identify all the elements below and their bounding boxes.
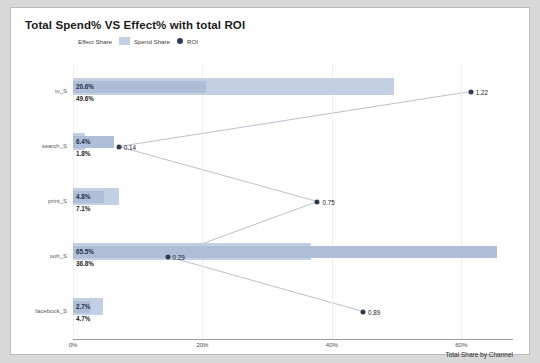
grid-line (202, 64, 203, 339)
bar-value-effect-share: 20.6% (76, 83, 94, 90)
bar-effect-share[interactable] (73, 246, 497, 258)
square-swatch-icon (119, 37, 130, 45)
legend-item-roi[interactable]: ROI (177, 38, 198, 45)
roi-data-point[interactable] (116, 144, 121, 149)
y-axis-category-label: search_S (11, 143, 67, 149)
roi-value-label: 0.75 (322, 198, 334, 205)
bar-value-effect-share: 2.7% (76, 303, 90, 310)
roi-data-point[interactable] (468, 89, 473, 94)
bar-value-effect-share: 65.5% (76, 248, 94, 255)
x-axis-line (73, 339, 513, 340)
x-axis-tick-label: 40% (326, 342, 338, 348)
legend-label-spend-share: Spend Share (134, 38, 170, 45)
y-axis-category-label: tv_S (11, 88, 67, 94)
chart-title: Total Spend% VS Effect% with total ROI (25, 19, 245, 31)
bar-value-spend-share: 7.1% (76, 205, 90, 212)
y-axis-category-label: ooh_S (11, 253, 67, 259)
legend-item-spend-share[interactable]: Spend Share (119, 37, 170, 45)
chart-legend: Effect Share Spend Share ROI (63, 37, 198, 45)
roi-connector-lines (73, 64, 513, 339)
square-swatch-icon (63, 37, 74, 45)
roi-value-label: 1.22 (476, 88, 488, 95)
bar-value-spend-share: 4.7% (76, 315, 90, 322)
roi-value-label: 0.29 (173, 253, 185, 260)
bar-value-effect-share: 4.8% (76, 193, 90, 200)
legend-label-effect-share: Effect Share (78, 38, 112, 45)
plot-area: 20.6%49.6%1.226.4%1.8%0.144.8%7.1%0.7565… (73, 64, 513, 339)
x-axis-tick-label: 20% (196, 342, 208, 348)
bar-value-spend-share: 36.8% (76, 260, 94, 267)
grid-line (461, 64, 462, 339)
legend-item-effect-share[interactable]: Effect Share (63, 37, 112, 45)
legend-label-roi: ROI (187, 38, 198, 45)
chart-card: Total Spend% VS Effect% with total ROI E… (10, 7, 530, 355)
roi-value-label: 0.89 (368, 308, 380, 315)
circle-marker-icon (177, 38, 183, 44)
y-axis-category-label: facebook_S (11, 308, 67, 314)
roi-data-point[interactable] (361, 309, 366, 314)
x-axis-tick-label: 60% (455, 342, 467, 348)
roi-data-point[interactable] (315, 199, 320, 204)
x-axis-title: Total Share by Channel (445, 351, 513, 358)
bar-value-spend-share: 1.8% (76, 150, 90, 157)
x-axis-tick-label: 0% (69, 342, 78, 348)
roi-value-label: 0.14 (124, 143, 136, 150)
bar-value-effect-share: 6.4% (76, 138, 90, 145)
roi-data-point[interactable] (165, 254, 170, 259)
bar-value-spend-share: 49.6% (76, 95, 94, 102)
y-axis-category-label: print_S (11, 198, 67, 204)
